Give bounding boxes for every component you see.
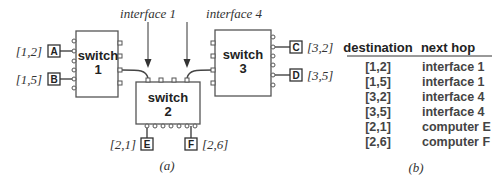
computer-C: C [3,2] <box>290 40 333 55</box>
header-destination: destination <box>343 40 412 55</box>
computer-C-address: [3,2] <box>307 40 333 55</box>
network-diagram: interface 1 interface 4 switch 1 <box>0 0 502 184</box>
interface-1-label: interface 1 <box>120 6 176 21</box>
table-cell-destination: [2,6] <box>365 135 391 149</box>
computer-A: A [1,2] <box>16 44 60 59</box>
diagram-caption: (a) <box>159 158 174 173</box>
table-cell-destination: [2,1] <box>365 120 391 134</box>
table-cell-next-hop: interface 1 <box>422 75 485 89</box>
computer-D-label: D <box>292 70 299 81</box>
interface-1-arrow-icon <box>145 22 152 68</box>
table-cell-next-hop: interface 4 <box>422 90 485 104</box>
switch-2-number: 2 <box>164 104 171 119</box>
interface-4-arrow-icon <box>184 22 191 68</box>
switch-3: switch 3 <box>211 30 275 96</box>
table-cell-destination: [3,5] <box>365 105 391 119</box>
computer-F-address: [2,6] <box>202 137 228 152</box>
table-caption: (b) <box>408 160 423 175</box>
switch-1-number: 1 <box>94 62 101 77</box>
switch-1-name: switch <box>78 48 119 63</box>
computer-F-label: F <box>188 139 194 150</box>
switch-3-number: 3 <box>239 61 246 76</box>
switch-3-name: switch <box>223 47 264 62</box>
table-cell-next-hop: computer E <box>422 120 491 134</box>
interface-4-label: interface 4 <box>206 6 262 21</box>
table-cell-next-hop: computer F <box>422 135 490 149</box>
computer-B: B [1,5] <box>16 72 60 87</box>
table-cell-next-hop: interface 1 <box>422 60 485 74</box>
computer-D: D [3,5] <box>290 68 333 83</box>
wire-switch2-switch3 <box>187 70 213 78</box>
computer-F: F [2,6] <box>185 137 228 152</box>
computer-E: E [2,1] <box>110 137 153 152</box>
table-cell-destination: [1,2] <box>365 60 391 74</box>
computer-A-address: [1,2] <box>16 44 42 59</box>
computer-D-address: [3,5] <box>307 68 333 83</box>
computer-B-address: [1,5] <box>16 72 42 87</box>
switch-1: switch 1 <box>72 31 122 97</box>
computer-C-label: C <box>292 42 299 53</box>
computer-A-label: A <box>50 46 57 57</box>
computer-E-label: E <box>144 139 151 150</box>
header-next-hop: next hop <box>421 40 475 55</box>
computer-B-label: B <box>50 74 57 85</box>
table-cell-next-hop: interface 4 <box>422 105 485 119</box>
switch-2-name: switch <box>148 90 189 105</box>
computer-E-address: [2,1] <box>110 137 136 152</box>
switch-2: switch 2 <box>136 78 200 128</box>
table-cell-destination: [1,5] <box>365 75 391 89</box>
wire-switch1-switch2 <box>122 70 148 78</box>
forwarding-table: destination next hop [1,2] interface 1 [… <box>343 40 492 175</box>
table-cell-destination: [3,2] <box>365 90 391 104</box>
